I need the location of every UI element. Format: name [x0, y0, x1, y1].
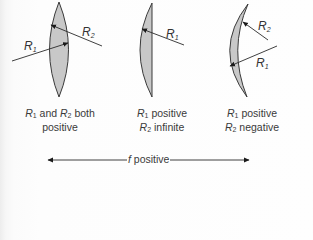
caption-line-2: R2 negative	[214, 122, 286, 136]
focal-axis-label: f positive	[127, 153, 170, 165]
biconvex-caption: R1 and R2 both positive	[8, 108, 112, 133]
caption-line-1: R1 positive	[122, 108, 202, 122]
r1-label: R1	[256, 56, 269, 70]
plano-convex-lens-shape	[140, 3, 152, 97]
r2-label: R2	[82, 25, 95, 39]
biconvex-lens-shape	[50, 2, 69, 97]
focal-text: positive	[131, 153, 170, 165]
caption-line-1: R1 and R2 both	[8, 108, 112, 122]
meniscus-caption: R1 positive R2 negative	[214, 108, 286, 135]
r1-label: R1	[24, 39, 37, 53]
r2-label: R2	[258, 19, 271, 33]
caption-line-2: positive	[8, 122, 112, 134]
meniscus-lens-shape	[230, 4, 248, 97]
caption-line-2: R2 infinite	[122, 122, 202, 136]
biconvex-lens: R1 R2	[12, 2, 102, 97]
caption-line-1: R1 positive	[214, 108, 286, 122]
r1-label: R1	[166, 27, 179, 41]
meniscus-lens: R2 R1	[230, 4, 277, 97]
plano-convex-caption: R1 positive R2 infinite	[122, 108, 202, 135]
plano-convex-lens: R1	[140, 3, 184, 97]
lens-diagram: R1 R2 R1 R2 R1	[0, 0, 286, 176]
